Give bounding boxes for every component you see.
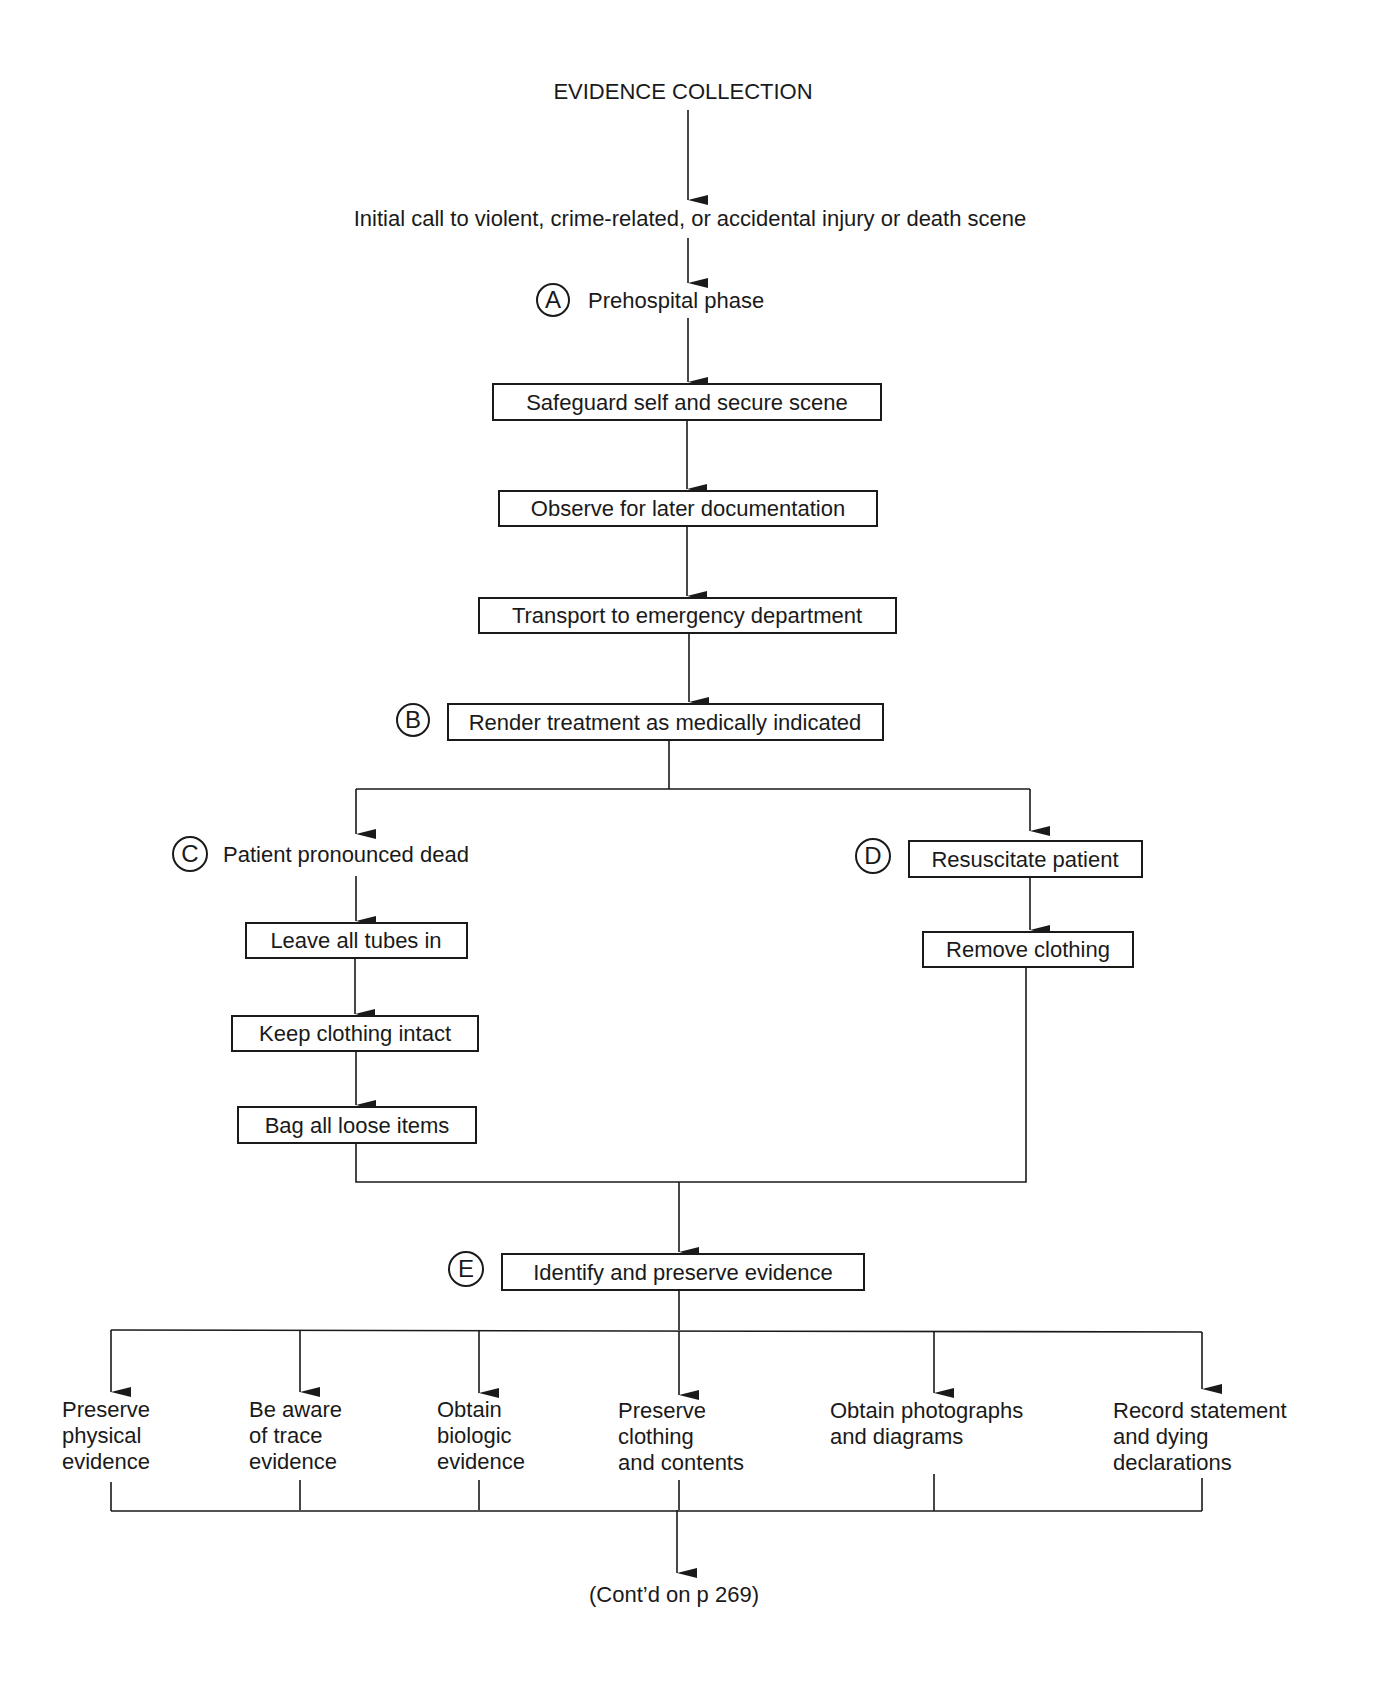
action-line: Be aware [249, 1397, 342, 1422]
step-transport: Transport to emergency department [479, 598, 896, 633]
step-label: Resuscitate patient [931, 847, 1118, 872]
step-label: Observe for later documentation [531, 496, 845, 521]
step-label: Safeguard self and secure scene [526, 390, 848, 415]
continuation-note: (Cont’d on p 269) [589, 1582, 759, 1607]
fanout-connector [111, 1290, 1202, 1332]
marker-letter: A [545, 286, 561, 313]
initial-call-label: Initial call to violent, crime-related, … [354, 206, 1027, 231]
action-trace-evidence: Be aware of trace evidence [249, 1397, 342, 1474]
action-line: clothing [618, 1424, 694, 1449]
action-line: Obtain [437, 1397, 502, 1422]
action-line: Obtain photographs [830, 1398, 1023, 1423]
step-bag-items: Bag all loose items [238, 1107, 476, 1143]
action-line: evidence [249, 1449, 337, 1474]
step-observe: Observe for later documentation [499, 491, 877, 526]
action-biologic-evidence: Obtain biologic evidence [437, 1397, 525, 1474]
step-label: Remove clothing [946, 937, 1110, 962]
phase-e-marker: E [449, 1252, 483, 1286]
phase-a-marker: A [537, 284, 569, 316]
step-identify-evidence: Identify and preserve evidence [502, 1254, 864, 1290]
action-line: and contents [618, 1450, 744, 1475]
action-line: evidence [437, 1449, 525, 1474]
phase-a-label: Prehospital phase [588, 288, 764, 313]
branch-d-marker: D [856, 839, 890, 873]
action-line: physical [62, 1423, 141, 1448]
step-remove-clothing: Remove clothing [923, 932, 1133, 967]
action-line: Record statement [1113, 1398, 1287, 1423]
evidence-collection-flowchart: EVIDENCE COLLECTION Initial call to viol… [0, 0, 1378, 1692]
marker-letter: C [181, 840, 198, 867]
step-label: Transport to emergency department [512, 603, 862, 628]
merge-connector [356, 967, 1026, 1182]
branch-c-marker: C [173, 837, 207, 871]
step-keep-clothing: Keep clothing intact [232, 1016, 478, 1051]
step-leave-tubes: Leave all tubes in [246, 923, 467, 958]
fanin-connector [111, 1474, 1202, 1511]
marker-letter: B [405, 706, 421, 733]
action-preserve-clothing: Preserve clothing and contents [618, 1398, 744, 1475]
step-label: Bag all loose items [265, 1113, 450, 1138]
step-label: Leave all tubes in [270, 928, 441, 953]
action-record-statement: Record statement and dying declarations [1113, 1398, 1287, 1475]
step-label: Identify and preserve evidence [533, 1260, 833, 1285]
action-photographs: Obtain photographs and diagrams [830, 1398, 1023, 1449]
action-line: Preserve [62, 1397, 150, 1422]
step-safeguard: Safeguard self and secure scene [493, 384, 881, 420]
action-line: of trace [249, 1423, 322, 1448]
action-line: declarations [1113, 1450, 1232, 1475]
action-line: evidence [62, 1449, 150, 1474]
branch-c-label: Patient pronounced dead [223, 842, 469, 867]
step-render-treatment: Render treatment as medically indicated [448, 704, 883, 740]
marker-letter: D [864, 842, 881, 869]
step-label: Render treatment as medically indicated [469, 710, 862, 735]
action-line: Preserve [618, 1398, 706, 1423]
marker-letter: E [458, 1255, 474, 1282]
action-line: and diagrams [830, 1424, 963, 1449]
action-line: biologic [437, 1423, 512, 1448]
branch-connector [356, 740, 1030, 789]
chart-title: EVIDENCE COLLECTION [553, 79, 812, 104]
action-preserve-physical: Preserve physical evidence [62, 1397, 150, 1474]
action-line: and dying [1113, 1424, 1208, 1449]
step-label: Keep clothing intact [259, 1021, 451, 1046]
phase-b-marker: B [397, 704, 429, 736]
step-resuscitate: Resuscitate patient [909, 841, 1142, 877]
